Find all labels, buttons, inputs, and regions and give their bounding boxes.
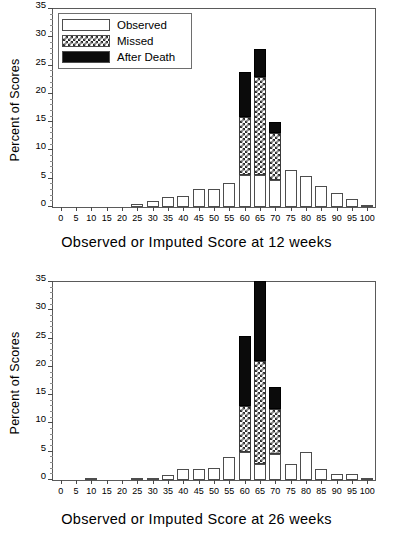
y-axis-tick-label: 35 [35, 0, 46, 10]
y-axis-minor-tick [50, 389, 53, 390]
x-axis-tick-label: 20 [117, 486, 127, 496]
y-axis-minor-tick [50, 138, 53, 139]
y-axis-minor-tick [50, 76, 53, 77]
x-axis-tick [122, 480, 123, 484]
chart-panel-12-weeks: Percent of Scores 0510152025303505101520… [0, 0, 393, 273]
x-axis-tick [107, 207, 108, 211]
legend: Observed Missed After Death [58, 13, 192, 69]
x-axis-tick [291, 480, 292, 484]
x-axis-tick [61, 480, 62, 484]
bar [269, 387, 281, 480]
y-axis-minor-tick [50, 292, 53, 293]
bar [269, 122, 281, 207]
bar-segment-observed [331, 193, 343, 207]
y-axis-minor-tick [50, 372, 53, 373]
bar-segment-observed [285, 464, 297, 480]
x-axis-tick [337, 480, 338, 484]
y-axis-tick-label: 10 [35, 413, 46, 424]
y-axis-tick-label: 20 [35, 356, 46, 367]
x-axis-title-bottom: Observed or Imputed Score at 26 weeks [0, 511, 393, 527]
bar [223, 457, 235, 480]
bar [285, 170, 297, 207]
y-axis-tick-label: 20 [35, 83, 46, 94]
x-axis-tick [260, 207, 261, 211]
legend-swatch-after-death [62, 51, 110, 63]
x-axis-tick [245, 480, 246, 484]
bar-segment-observed [269, 180, 281, 207]
y-axis-minor-tick [50, 172, 53, 173]
x-axis-tick-label: 20 [117, 213, 127, 223]
bar-segment-after-death [239, 336, 251, 407]
bar [346, 199, 358, 207]
y-axis-minor-tick [50, 127, 53, 128]
bar-segment-missed [254, 361, 266, 464]
legend-label-missed: Missed [117, 35, 153, 47]
bar-segment-observed [208, 189, 220, 207]
x-axis-tick [183, 480, 184, 484]
x-axis-tick-label: 100 [360, 486, 375, 496]
y-axis-minor-tick [50, 42, 53, 43]
x-axis-tick [337, 207, 338, 211]
x-axis-tick [229, 207, 230, 211]
x-axis-tick-label: 95 [347, 486, 357, 496]
y-axis-minor-tick [50, 434, 53, 435]
y-axis-minor-tick [50, 456, 53, 457]
bar-segment-observed [285, 170, 297, 207]
x-axis-tick [91, 207, 92, 211]
x-axis-tick-label: 40 [178, 213, 188, 223]
x-axis-tick [137, 480, 138, 484]
bar-segment-observed [208, 468, 220, 480]
x-axis-tick-label: 85 [316, 486, 326, 496]
bar [85, 478, 97, 480]
bar [177, 196, 189, 207]
y-axis-minor-tick [50, 116, 53, 117]
x-axis-tick [168, 480, 169, 484]
bar-segment-missed [269, 133, 281, 180]
x-axis-tick-label: 75 [286, 213, 296, 223]
bar [239, 336, 251, 480]
legend-label-after-death: After Death [117, 51, 175, 63]
x-axis-tick [352, 480, 353, 484]
x-axis-tick [153, 480, 154, 484]
bar-segment-after-death [269, 122, 281, 133]
x-axis-tick-label: 10 [86, 213, 96, 223]
y-axis-tick [48, 479, 53, 480]
y-axis-minor-tick [50, 417, 53, 418]
bar [193, 189, 205, 207]
y-axis-minor-tick [50, 315, 53, 316]
y-axis-tick-label: 30 [35, 27, 46, 38]
bar-segment-observed [254, 175, 266, 207]
x-axis-tick-label: 15 [102, 486, 112, 496]
y-axis-title-bottom: Percent of Scores [8, 143, 26, 303]
y-axis-tick [48, 36, 53, 37]
chart-panel-26-weeks: Percent of Scores 0510152025303505101520… [0, 273, 393, 546]
bar [315, 186, 327, 207]
bar-segment-missed [239, 117, 251, 176]
bar-segment-observed [193, 189, 205, 207]
y-axis-tick [48, 451, 53, 452]
y-axis-minor-tick [50, 360, 53, 361]
x-axis-tick [214, 480, 215, 484]
y-axis-minor-tick [50, 48, 53, 49]
y-axis-tick [48, 121, 53, 122]
legend-swatch-missed [62, 35, 110, 47]
y-axis-minor-tick [50, 445, 53, 446]
y-axis-minor-tick [50, 400, 53, 401]
bar-segment-observed [147, 478, 159, 480]
bar [300, 452, 312, 480]
y-axis-minor-tick [50, 428, 53, 429]
x-axis-tick [61, 207, 62, 211]
x-axis-tick-label: 90 [332, 486, 342, 496]
x-axis-tick [183, 207, 184, 211]
y-axis-minor-tick [50, 377, 53, 378]
y-axis-minor-tick [50, 132, 53, 133]
y-axis-minor-tick [50, 321, 53, 322]
x-axis-tick-label: 50 [209, 486, 219, 496]
x-axis-tick-label: 10 [86, 486, 96, 496]
y-axis-minor-tick [50, 25, 53, 26]
bar-segment-observed [162, 475, 174, 480]
y-axis-tick [48, 338, 53, 339]
x-axis-tick [153, 207, 154, 211]
x-axis-tick-label: 40 [178, 486, 188, 496]
y-axis-tick-label: 0 [41, 197, 46, 208]
